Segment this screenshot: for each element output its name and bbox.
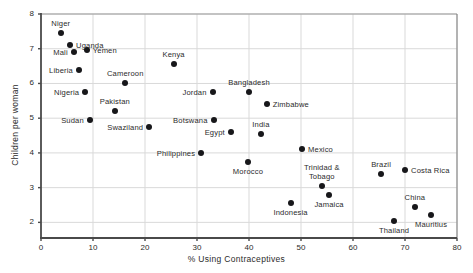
data-point[interactable] (319, 183, 325, 189)
data-point[interactable] (326, 192, 332, 198)
data-point-label: India (252, 120, 269, 129)
y-axis-title: Children per woman (10, 80, 20, 170)
data-point-label: Egypt (205, 128, 225, 137)
data-point[interactable] (245, 159, 251, 165)
data-point[interactable] (210, 89, 216, 95)
data-point-label: Thailand (379, 226, 409, 235)
x-tick-label: 50 (289, 243, 313, 252)
data-point-label: China (405, 193, 426, 202)
data-point-label: Sudan (61, 115, 84, 124)
data-point-label: Swaziland (107, 122, 143, 131)
data-point[interactable] (87, 117, 93, 123)
x-tick-label: 0 (29, 243, 53, 252)
x-tick-label: 20 (133, 243, 157, 252)
data-point-label: Bangladesh (228, 78, 270, 87)
data-point-label: Zimbabwe (273, 100, 309, 109)
data-point[interactable] (258, 131, 264, 137)
x-tick-label: 70 (393, 243, 417, 252)
data-point-label: Nigeria (54, 88, 79, 97)
data-point-label: Brazil (371, 160, 391, 169)
data-point-label: Mali (53, 48, 68, 57)
data-point-label: Jamaica (314, 200, 343, 209)
data-point-label: Botswana (173, 115, 208, 124)
data-point-label: Yemen (93, 46, 117, 55)
y-tick-label: 8 (14, 9, 34, 18)
x-tick-label: 80 (445, 243, 469, 252)
data-point-label: Cameroon (107, 69, 144, 78)
y-tick-label: 2 (14, 217, 34, 226)
data-point-label: Indonesia (273, 208, 307, 217)
data-point-label: Kenya (162, 50, 184, 59)
data-point[interactable] (146, 124, 152, 130)
y-tick-label: 3 (14, 183, 34, 192)
data-point-label: Trinidad & Tobago (304, 163, 340, 181)
data-point-label: Pakistan (100, 97, 130, 106)
data-point[interactable] (171, 61, 177, 67)
data-point-label: Mauritius (415, 220, 447, 229)
data-point-label: Jordan (182, 88, 206, 97)
data-point[interactable] (288, 200, 294, 206)
data-point[interactable] (378, 171, 384, 177)
data-point[interactable] (228, 129, 234, 135)
data-point[interactable] (71, 49, 77, 55)
x-tick-label: 60 (341, 243, 365, 252)
data-point[interactable] (76, 67, 82, 73)
data-point-label: Mexico (308, 145, 333, 154)
data-point[interactable] (412, 204, 418, 210)
data-point[interactable] (264, 101, 270, 107)
scatter-chart: 234567801020304050607080 NigerUgandaMali… (0, 0, 473, 273)
data-point[interactable] (391, 218, 397, 224)
data-point-label: Costa Rica (411, 166, 450, 175)
y-tick-label: 7 (14, 44, 34, 53)
data-point-label: Morocco (233, 167, 263, 176)
x-tick-label: 30 (185, 243, 209, 252)
data-point[interactable] (211, 117, 217, 123)
x-axis-title: % Using Contraceptives (0, 254, 473, 264)
data-point-label: Philippines (157, 148, 195, 157)
data-point-label: Liberia (49, 65, 73, 74)
data-point-label: Niger (51, 19, 70, 28)
x-tick-label: 10 (81, 243, 105, 252)
data-point[interactable] (58, 30, 64, 36)
x-tick-label: 40 (237, 243, 261, 252)
